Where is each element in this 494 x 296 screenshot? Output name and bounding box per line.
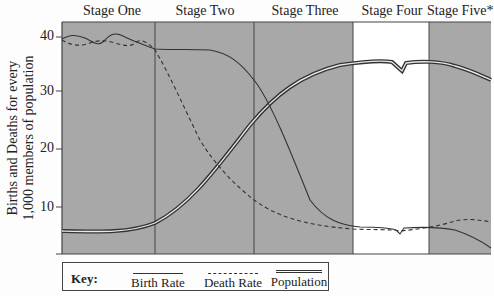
- double-line-swatch-icon: [276, 267, 322, 273]
- solid-line-swatch-icon: [133, 267, 183, 274]
- stage-one-region: [62, 22, 155, 254]
- legend-label-death-rate: Death Rate: [204, 275, 262, 290]
- legend-entry-population: Population: [259, 267, 339, 290]
- legend-entry-birth-rate: Birth Rate: [123, 267, 193, 291]
- legend-title: Key:: [71, 271, 98, 287]
- legend-label-birth-rate: Birth Rate: [131, 275, 185, 290]
- legend-label-population: Population: [271, 274, 327, 289]
- legend: Key: Birth Rate Death Rate Population: [62, 262, 329, 291]
- stage-three-region: [254, 22, 353, 254]
- stage-four-region: [353, 22, 429, 254]
- stage-five-region: [429, 22, 491, 254]
- y-axis-ticks: [56, 37, 62, 207]
- dashed-line-swatch-icon: [208, 267, 258, 274]
